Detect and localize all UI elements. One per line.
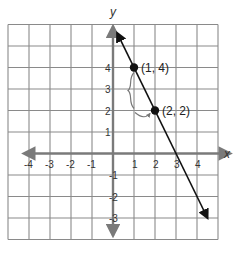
y-tick-label: 3: [105, 84, 111, 95]
y-axis-label: y: [109, 5, 117, 19]
x-tick-label: -2: [66, 159, 75, 170]
x-tick-label: -4: [24, 159, 33, 170]
point-label: (1, 4): [141, 61, 169, 75]
x-tick-label: 2: [153, 159, 159, 170]
y-tick-label: 2: [105, 106, 111, 117]
x-tick-label: 1: [132, 159, 138, 170]
y-tick-label: -2: [109, 192, 118, 203]
coordinate-graph: -4-3-2-112344321-1-2-3 (1, 4)(2, 2) x y: [0, 0, 238, 254]
y-tick-label: -3: [109, 213, 118, 224]
x-axis-label: x: [223, 147, 231, 161]
y-tick-label: -1: [109, 170, 118, 181]
x-tick-label: 4: [195, 159, 201, 170]
data-point: [151, 106, 159, 114]
x-tick-label: -3: [45, 159, 54, 170]
rise-brace: [128, 73, 134, 109]
y-tick-label: 4: [105, 63, 111, 74]
run-arrow: [135, 113, 150, 117]
point-label: (2, 2): [162, 104, 190, 118]
axes: [24, 27, 230, 236]
data-point: [130, 63, 138, 71]
x-tick-label: -1: [87, 159, 96, 170]
y-tick-label: 1: [105, 127, 111, 138]
